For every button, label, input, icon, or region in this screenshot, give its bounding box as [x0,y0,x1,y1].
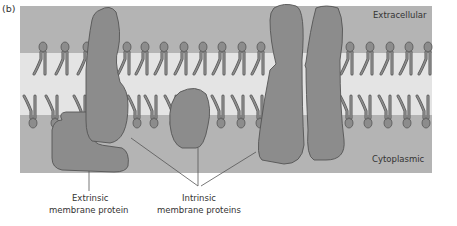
extrinsic-label-line1: Extrinsic [72,193,108,204]
intrinsic-protein-middle [170,88,210,148]
extracellular-label: Extracellular [373,10,427,21]
membrane-diagram [0,0,457,226]
intrinsic-label-line1: Intrinsic [182,193,216,204]
extrinsic-label-line2: membrane protein [49,205,128,216]
intrinsic-label-line2: membrane proteins [157,205,241,216]
cytoplasmic-label: Cytoplasmic [372,154,424,165]
intrinsic-protein-right-b [305,6,344,160]
panel-label: (b) [2,3,15,14]
